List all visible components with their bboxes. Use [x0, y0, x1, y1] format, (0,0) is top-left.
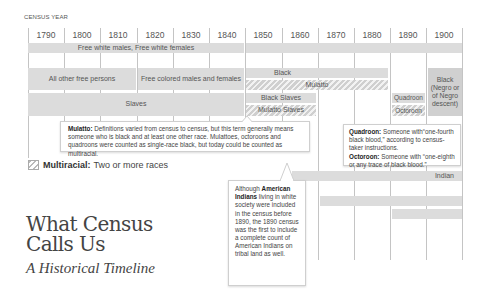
note-indian: Although American Indians living in whit… — [228, 180, 306, 286]
year-label: 1820 — [137, 30, 173, 40]
note-text: living in white society were included in… — [235, 193, 299, 257]
bar-black-1900: Black (Negro or of Negro descent) — [428, 68, 462, 116]
note-indian-pointer — [280, 163, 294, 181]
bar-octoroon: Octoroon — [392, 105, 425, 116]
note-mulatto-pointer — [240, 116, 254, 124]
year-label: 1860 — [282, 30, 318, 40]
year-label: 1890 — [390, 30, 426, 40]
bar-indian: Indian — [292, 171, 462, 181]
note-text: Definitions varied from census to census… — [68, 125, 293, 157]
bar-black-slaves: Black Slaves — [246, 93, 316, 103]
legend-text: Two or more races — [94, 160, 169, 170]
page-subtitle: A Historical Timeline — [26, 260, 155, 277]
bar-quadroon: Quadroon — [392, 93, 425, 103]
year-label: 1900 — [426, 30, 462, 40]
legend-multiracial: Multiracial: Two or more races — [28, 160, 168, 170]
bar-all-other-free: All other free persons — [28, 68, 136, 90]
bar-free-white-continued — [246, 43, 462, 53]
year-label: 1830 — [173, 30, 209, 40]
note-term: Quadroon: — [349, 128, 381, 135]
bar-black: Black — [246, 68, 388, 78]
year-label: 1790 — [28, 30, 64, 40]
page-title: What Census Calls Us — [26, 214, 153, 254]
year-label: 1810 — [100, 30, 136, 40]
year-label: 1850 — [245, 30, 281, 40]
bar-indian-3 — [392, 209, 462, 219]
note-text: Although — [235, 185, 260, 192]
bar-indian-2 — [320, 196, 462, 206]
year-label: 1880 — [354, 30, 390, 40]
gridline — [318, 28, 319, 260]
year-label: 1840 — [209, 30, 245, 40]
bar-free-white: Free white males, Free white females — [28, 43, 244, 53]
note-term: Octoroon: — [349, 153, 379, 160]
gridline — [462, 28, 463, 260]
note-quadroon-octoroon: Quadroon: Someone with“one-fourth black … — [343, 124, 461, 166]
legend-term: Multiracial: — [43, 160, 91, 170]
axis-label: CENSUS YEAR — [24, 14, 68, 20]
year-label: 1800 — [64, 30, 100, 40]
bar-mulatto: Mulatto — [246, 80, 388, 90]
bar-slaves: Slaves — [28, 93, 244, 116]
note-term: Mulatto: — [68, 125, 92, 132]
year-label: 1870 — [318, 30, 354, 40]
bar-mulatto-slaves: Mulatto Slaves — [246, 105, 316, 116]
bar-free-colored: Free colored males and females — [138, 68, 244, 90]
note-mulatto: Mulatto: Definitions varied from census … — [60, 121, 310, 152]
hatch-swatch-icon — [28, 160, 39, 170]
